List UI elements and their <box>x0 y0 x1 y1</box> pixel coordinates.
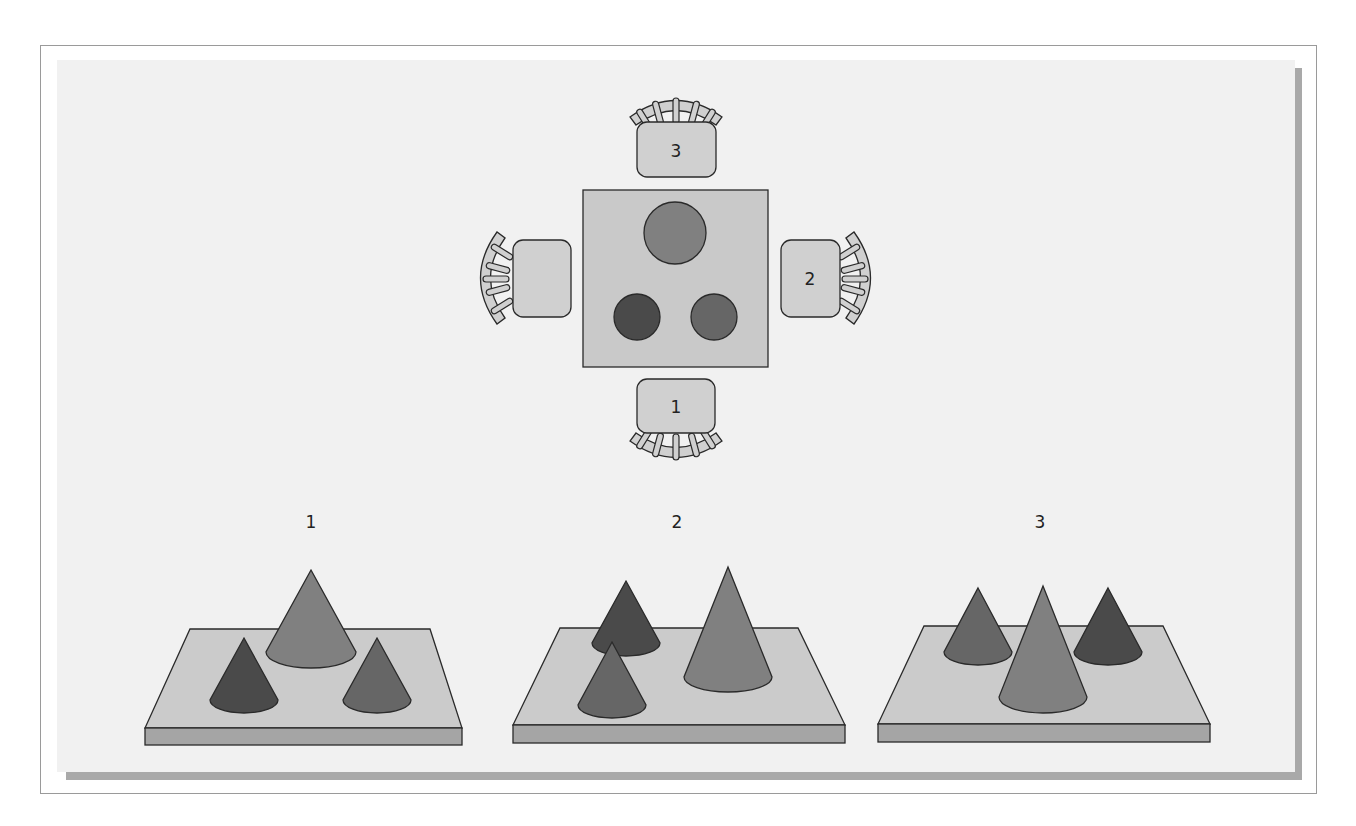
cone-dark <box>592 581 660 656</box>
view-label-1: 1 <box>306 512 317 532</box>
three-mountains-diagram: 3 1 <box>0 0 1356 826</box>
view-label-2: 2 <box>672 512 683 532</box>
view-2: 2 <box>513 512 845 743</box>
chair-left <box>481 232 572 324</box>
mountain-medium-top <box>691 294 737 340</box>
top-view: 3 1 <box>481 98 871 460</box>
mountain-large-top <box>644 202 706 264</box>
view-3: 3 <box>878 512 1210 742</box>
view-label-3: 3 <box>1035 512 1046 532</box>
chair-2: 2 <box>781 232 871 324</box>
view-1: 1 <box>145 512 462 745</box>
chair-3: 3 <box>630 98 722 177</box>
chair-label-1: 1 <box>671 397 682 417</box>
chair-label-3: 3 <box>671 141 682 161</box>
chair-label-2: 2 <box>805 269 816 289</box>
cone-large <box>266 570 356 668</box>
mountain-dark-top <box>614 294 660 340</box>
chair-1: 1 <box>630 379 722 460</box>
